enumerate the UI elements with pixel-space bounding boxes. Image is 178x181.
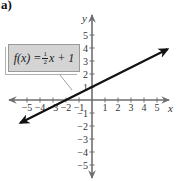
y-tick-label: 2: [83, 69, 88, 80]
equation-lhs: f(x) =: [14, 51, 42, 66]
x-axis-label: x: [167, 102, 173, 114]
fraction-denominator: 2: [43, 59, 47, 66]
y-tick-label: −1: [77, 108, 88, 119]
y-axis-label: y: [81, 12, 87, 24]
x-tick-label: 5: [155, 102, 160, 113]
graph: −5−4−3−2−112345 54321−1−2−3−4−5 x y: [0, 0, 178, 181]
y-tick-label: 5: [83, 30, 88, 41]
x-tick-label: 2: [116, 102, 121, 113]
y-tick-label: 4: [83, 43, 88, 54]
equation-fraction: 1 2: [42, 51, 48, 66]
pointer-line: [60, 75, 72, 90]
x-tick-label: −2: [61, 102, 72, 113]
y-tick-label: −3: [77, 134, 88, 145]
x-tick-label: 4: [142, 102, 147, 113]
equation-rhs: x + 1: [49, 51, 74, 66]
y-tick-label: −2: [77, 121, 88, 132]
equation-label: f(x) = 1 2 x + 1: [8, 44, 80, 72]
y-tick-label: 3: [83, 56, 88, 67]
x-tick-label: 1: [103, 102, 108, 113]
x-tick-label: −5: [22, 102, 33, 113]
x-tick-label: 3: [129, 102, 134, 113]
y-tick-label: −5: [77, 160, 88, 171]
y-tick-label: −4: [77, 147, 88, 158]
